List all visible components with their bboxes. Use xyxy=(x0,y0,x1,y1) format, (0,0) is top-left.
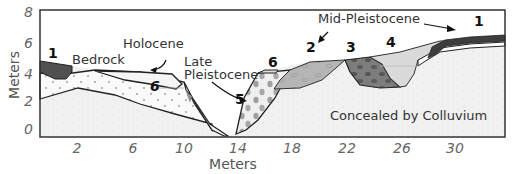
x-tick-10: 10 xyxy=(175,140,193,156)
cross-section-svg: 8 6 4 2 0 Meters 2 6 10 14 18 22 26 30 M… xyxy=(0,0,512,174)
unit-3-label: 3 xyxy=(346,39,356,55)
x-tick-18: 18 xyxy=(283,140,301,156)
late-pleistocene-label-line2: Pleistocene xyxy=(184,67,258,82)
unit-1-left-label: 1 xyxy=(48,45,58,61)
x-tick-6: 6 xyxy=(129,140,138,156)
holocene-label: Holocene xyxy=(123,36,184,51)
x-tick-30: 30 xyxy=(446,140,464,156)
x-tick-14: 14 xyxy=(229,140,247,156)
x-tick-22: 22 xyxy=(338,140,356,156)
mid-pleistocene-label: Mid-Pleistocene xyxy=(318,11,420,26)
unit-4-label: 4 xyxy=(386,34,396,50)
y-axis-title: Meters xyxy=(6,51,22,99)
unit-5-label: 5 xyxy=(235,91,245,107)
unit-2-label: 2 xyxy=(306,39,316,55)
y-tick-4: 4 xyxy=(24,66,33,82)
x-tick-26: 26 xyxy=(393,140,411,156)
x-tick-2: 2 xyxy=(73,140,82,156)
y-tick-0: 0 xyxy=(24,121,33,137)
colluvium-label: Concealed by Colluvium xyxy=(330,108,487,123)
bedrock-label: Bedrock xyxy=(72,52,125,67)
unit-6-left-label: 6 xyxy=(150,78,160,94)
unit-1-right-label: 1 xyxy=(474,13,484,29)
geologic-cross-section: 8 6 4 2 0 Meters 2 6 10 14 18 22 26 30 M… xyxy=(0,0,512,174)
y-tick-6: 6 xyxy=(24,35,33,51)
y-tick-2: 2 xyxy=(24,93,33,109)
x-axis-title: Meters xyxy=(209,156,257,172)
y-tick-8: 8 xyxy=(24,4,33,20)
unit-6-mid-label: 6 xyxy=(268,54,278,70)
